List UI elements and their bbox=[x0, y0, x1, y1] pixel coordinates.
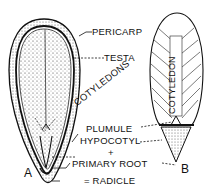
label-radicle: = RADICLE bbox=[84, 176, 135, 186]
label-pericarp: PERICARP bbox=[92, 27, 142, 37]
label-plumule: PLUMULE bbox=[86, 124, 132, 134]
figure-label-b: B bbox=[181, 163, 189, 175]
label-primary-root: PRIMARY ROOT bbox=[72, 159, 147, 169]
figure-label-a: A bbox=[24, 167, 32, 179]
seed-section-a bbox=[9, 19, 80, 183]
label-plus: + bbox=[108, 148, 114, 158]
label-cotyledon: COTYLEDON bbox=[168, 56, 177, 114]
label-hypocotyl: HYPOCOTYL bbox=[80, 136, 140, 146]
